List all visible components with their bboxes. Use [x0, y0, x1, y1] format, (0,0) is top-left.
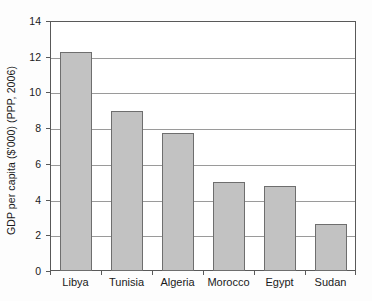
- x-tick-mark: [305, 271, 306, 275]
- x-tick-label-egypt: Egypt: [265, 276, 293, 288]
- bar-libya: [60, 52, 92, 271]
- bar-tunisia: [111, 111, 143, 271]
- bar-sudan: [315, 224, 347, 271]
- y-tick-label: 4: [0, 194, 41, 206]
- x-tick-mark: [152, 271, 153, 275]
- y-tick-label: 8: [0, 122, 41, 134]
- y-tick-label: 14: [0, 15, 41, 27]
- x-tick-label-morocco: Morocco: [207, 276, 249, 288]
- y-tick-label: 10: [0, 86, 41, 98]
- bar-morocco: [213, 182, 245, 271]
- x-tick-mark: [50, 271, 51, 275]
- y-tick-label: 6: [0, 158, 41, 170]
- x-tick-label-sudan: Sudan: [315, 276, 347, 288]
- x-tick-mark: [203, 271, 204, 275]
- bar-series: [50, 21, 356, 271]
- y-tick-label: 12: [0, 51, 41, 63]
- x-tick-mark: [254, 271, 255, 275]
- x-axis: LibyaTunisiaAlgeriaMoroccoEgyptSudan: [50, 271, 356, 301]
- bar-chart-figure: GDP per capita ($'000) (PPP, 2006) 02468…: [0, 0, 372, 301]
- y-tick-label: 2: [0, 229, 41, 241]
- x-tick-mark: [101, 271, 102, 275]
- bar-algeria: [162, 133, 194, 271]
- x-tick-label-tunisia: Tunisia: [109, 276, 144, 288]
- bar-egypt: [264, 186, 296, 271]
- x-tick-mark: [355, 271, 356, 275]
- x-tick-label-libya: Libya: [62, 276, 88, 288]
- y-axis: 02468101214: [0, 21, 50, 271]
- y-tick-label: 0: [0, 265, 41, 277]
- x-tick-label-algeria: Algeria: [160, 276, 194, 288]
